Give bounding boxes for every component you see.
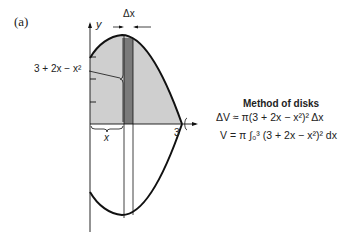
delta-x-label: Δx	[123, 8, 135, 19]
shaded-region	[90, 35, 182, 124]
method-title: Method of disks	[243, 98, 319, 109]
y-axis-label: y	[96, 18, 102, 30]
volume-equation: V = π ∫₀³ (3 + 2x − x²)² dx	[220, 129, 337, 141]
disk-strip	[124, 38, 133, 124]
delta-v-equation: ΔV ≈ π(3 + 2x − x²)² Δx	[216, 111, 324, 123]
disk-method-figure: (a) y Δx 3 + 2x − x² x 3 Method of disks…	[0, 0, 354, 245]
x-brace-label: x	[104, 132, 109, 143]
panel-label: (a)	[14, 14, 28, 30]
curve-label: 3 + 2x − x²	[34, 63, 81, 74]
x-tick-3: 3	[174, 127, 180, 138]
